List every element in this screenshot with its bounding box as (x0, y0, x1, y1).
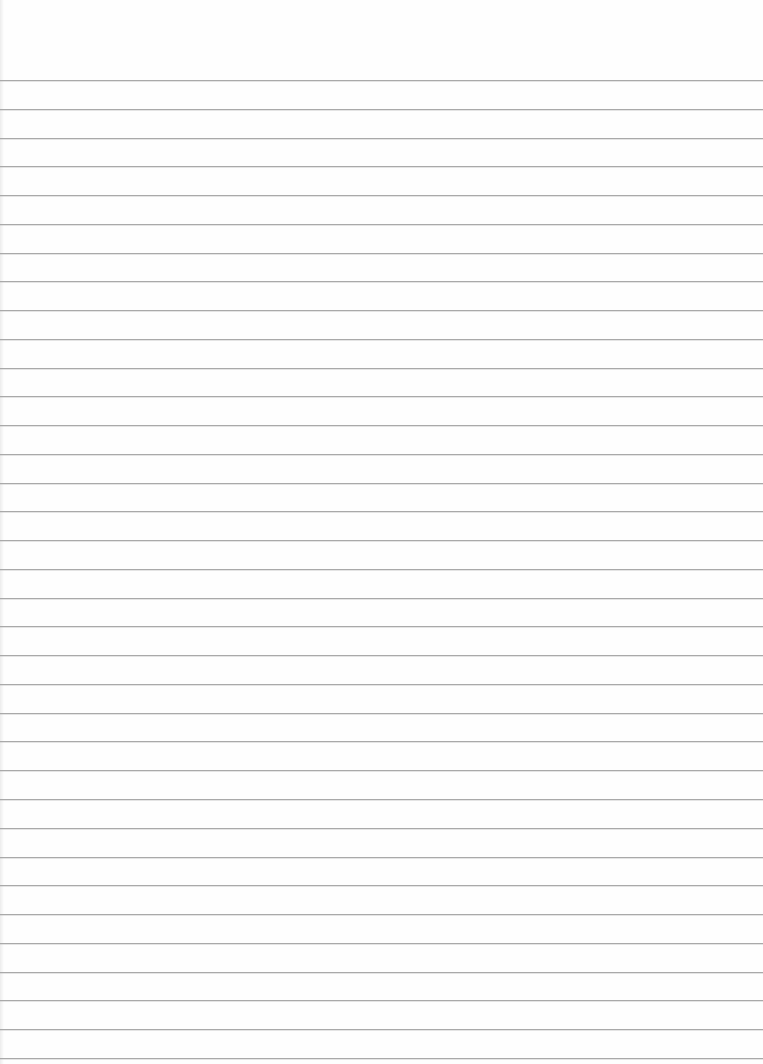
ruled-line (0, 483, 763, 484)
paper-left-edge-shadow (0, 0, 4, 1064)
ruled-line (0, 626, 763, 627)
ruled-line (0, 109, 763, 110)
ruled-line (0, 166, 763, 167)
ruled-line (0, 1058, 763, 1059)
ruled-line (0, 972, 763, 973)
ruled-line (0, 511, 763, 512)
ruled-line (0, 857, 763, 858)
ruled-line (0, 540, 763, 541)
ruled-line (0, 224, 763, 225)
ruled-line (0, 454, 763, 455)
ruled-line (0, 684, 763, 685)
lined-paper-sheet (0, 0, 763, 1064)
ruled-line (0, 885, 763, 886)
ruled-line (0, 713, 763, 714)
ruled-line (0, 741, 763, 742)
ruled-line (0, 799, 763, 800)
ruled-line (0, 598, 763, 599)
ruled-line (0, 310, 763, 311)
ruled-line (0, 368, 763, 369)
ruled-line (0, 655, 763, 656)
ruled-line (0, 1000, 763, 1001)
ruled-line (0, 770, 763, 771)
ruled-line (0, 339, 763, 340)
ruled-line (0, 253, 763, 254)
ruled-line (0, 943, 763, 944)
ruled-line (0, 914, 763, 915)
ruled-line (0, 1029, 763, 1030)
ruled-line (0, 396, 763, 397)
ruled-line (0, 569, 763, 570)
ruled-line (0, 425, 763, 426)
ruled-line (0, 138, 763, 139)
ruled-line (0, 828, 763, 829)
ruled-line (0, 80, 763, 81)
ruled-line (0, 281, 763, 282)
ruled-line (0, 195, 763, 196)
